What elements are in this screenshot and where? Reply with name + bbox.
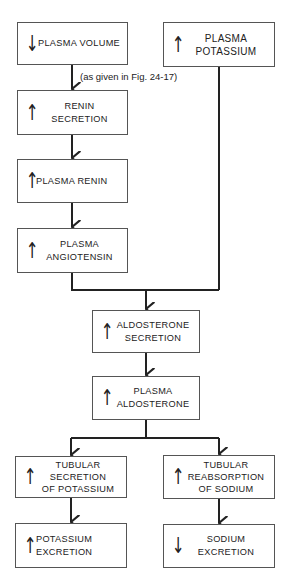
up-arrow-icon: ↑ xyxy=(24,535,32,557)
down-arrow-icon: ↓ xyxy=(26,33,34,55)
box-label: PLASMA ANGIOTENSIN xyxy=(36,238,127,264)
box-aldosterone-secretion: ↑ ALDOSTERONE SECRETION xyxy=(92,310,200,353)
up-arrow-icon: ↑ xyxy=(101,387,109,409)
box-renin-secretion: ↑ RENIN SECRETION xyxy=(17,90,128,135)
box-plasma-potassium: ↑ PLASMA POTASSIUM xyxy=(163,22,275,67)
up-arrow-icon: ↑ xyxy=(26,170,34,192)
box-label: POTASSIUM EXCRETION xyxy=(34,533,126,559)
box-label: PLASMA RENIN xyxy=(36,175,127,188)
up-arrow-icon: ↑ xyxy=(172,34,180,56)
figure-reference-note: (as given in Fig. 24-17) xyxy=(80,71,177,82)
box-sodium-excretion: ↓ SODIUM EXCRETION xyxy=(163,524,275,568)
up-arrow-icon: ↑ xyxy=(172,466,180,488)
box-plasma-angiotensin: ↑ PLASMA ANGIOTENSIN xyxy=(17,228,128,273)
box-label: PLASMA POTASSIUM xyxy=(182,32,274,58)
box-plasma-volume: ↓ PLASMA VOLUME xyxy=(17,22,128,65)
box-label: TUBULAR SECRETION OF POTASSIUM xyxy=(34,459,126,495)
up-arrow-icon: ↑ xyxy=(101,321,109,343)
box-plasma-renin: ↑ PLASMA RENIN xyxy=(17,159,128,203)
box-label: PLASMA VOLUME xyxy=(36,37,127,50)
box-potassium-excretion: ↑ POTASSIUM EXCRETION xyxy=(15,523,127,568)
up-arrow-icon: ↑ xyxy=(24,466,32,488)
box-tubular-reabsorption-sodium: ↑ TUBULAR REABSORPTION OF SODIUM xyxy=(163,455,275,499)
down-arrow-icon: ↓ xyxy=(172,535,180,557)
box-tubular-secretion-potassium: ↑ TUBULAR SECRETION OF POTASSIUM xyxy=(15,456,127,498)
box-plasma-aldosterone: ↑ PLASMA ALDOSTERONE xyxy=(92,376,200,420)
box-label: PLASMA ALDOSTERONE xyxy=(111,385,199,411)
box-label: RENIN SECRETION xyxy=(36,100,127,126)
up-arrow-icon: ↑ xyxy=(26,240,34,262)
box-label: SODIUM EXCRETION xyxy=(182,533,274,559)
box-label: ALDOSTERONE SECRETION xyxy=(111,319,199,345)
up-arrow-icon: ↑ xyxy=(26,102,34,124)
box-label: TUBULAR REABSORPTION OF SODIUM xyxy=(182,459,274,495)
